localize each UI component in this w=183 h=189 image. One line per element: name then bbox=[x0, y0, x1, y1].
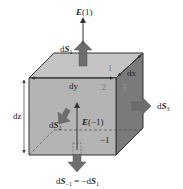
ds3-label: dS3 bbox=[157, 101, 170, 112]
ds1-label: dS1 bbox=[60, 44, 73, 55]
e-top-label: E(1) bbox=[75, 7, 93, 17]
e-bottom-label: E(−1) bbox=[81, 117, 104, 127]
dx-label: dx bbox=[127, 68, 137, 78]
dz-label: dz bbox=[13, 111, 22, 121]
ds-minus1-block-arrow bbox=[68, 155, 86, 172]
flux-cube-diagram: E(1) dS1 1 dx dy 2 3 dz dS3 dS2 E(−1) −1… bbox=[0, 0, 183, 189]
face-2-label: 2 bbox=[102, 83, 106, 92]
ds-minus1-label: dS−1 = −dS1 bbox=[56, 176, 99, 187]
face-1-label: 1 bbox=[108, 64, 112, 73]
face-3-label: 3 bbox=[122, 83, 126, 92]
dy-label: dy bbox=[69, 81, 79, 91]
face-minus1-label: −1 bbox=[100, 135, 110, 145]
